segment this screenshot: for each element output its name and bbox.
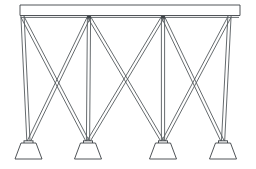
footing-4 <box>210 141 237 159</box>
footing-2-trapezoid <box>75 143 102 159</box>
bay-1-diagonal-descending-edge-a <box>21 17 87 142</box>
bay-3-diagonal-descending-edge-a <box>161 17 221 142</box>
bay-3-diagonal-ascending-edge-b <box>165 17 232 142</box>
bay-2-cross-brace <box>86 17 164 143</box>
footing-4-trapezoid <box>210 143 237 159</box>
column-4 <box>221 16 231 143</box>
joint-node-column-3-top <box>161 16 165 19</box>
top-chord-beam <box>20 5 240 17</box>
technical-drawing-canvas: Braced Trestle Tower Elevation elevation <box>0 0 256 169</box>
footing-3 <box>150 141 177 159</box>
column-4-right-edge <box>225 16 232 143</box>
bay-1-diagonal-ascending-edge-b <box>30 17 91 142</box>
column-2 <box>86 16 90 143</box>
bay-3-diagonal-ascending-edge-a <box>161 17 228 142</box>
footing-1-trapezoid <box>15 143 42 159</box>
footing-3-trapezoid <box>150 143 177 159</box>
joint-node-column-2-top <box>87 16 91 19</box>
bay-1-diagonal-ascending-edge-a <box>27 17 88 142</box>
column-1 <box>21 16 30 143</box>
column-1-left-edge <box>21 16 27 143</box>
trestle-elevation-drawing <box>0 0 256 169</box>
footing-2 <box>75 141 102 159</box>
column-2-left-edge <box>86 16 87 143</box>
footings-group <box>15 141 237 159</box>
bay-1-cross-brace <box>21 17 91 143</box>
column-3 <box>161 16 164 143</box>
column-2-right-edge <box>90 16 91 143</box>
bay-3-cross-brace <box>161 17 231 143</box>
column-1-right-edge <box>24 16 30 143</box>
footing-1 <box>15 141 42 159</box>
column-4-left-edge <box>221 16 228 143</box>
